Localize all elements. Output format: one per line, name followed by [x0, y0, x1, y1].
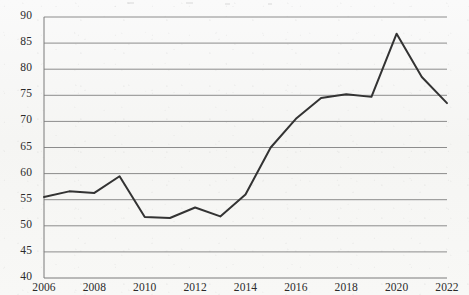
x-tick-label: 2016 [274, 281, 318, 293]
y-tick-label: 70 [2, 113, 32, 125]
y-tick-label: 45 [2, 244, 32, 256]
chart-figure: 4045505560657075808590 20062008201020122… [0, 0, 469, 295]
x-tick-label: 2006 [22, 281, 66, 293]
x-tick-label: 2012 [173, 281, 217, 293]
y-tick-label: 50 [2, 218, 32, 230]
x-tick-label: 2010 [123, 281, 167, 293]
x-tick-label: 2008 [72, 281, 116, 293]
gridlines [44, 17, 447, 252]
y-tick-label: 65 [2, 140, 32, 152]
y-tick-label: 60 [2, 166, 32, 178]
y-tick-label: 75 [2, 87, 32, 99]
line-chart-plot [0, 0, 469, 295]
y-tick-label: 80 [2, 61, 32, 73]
y-tick-label: 55 [2, 192, 32, 204]
series-line [44, 34, 447, 218]
x-tick-label: 2020 [375, 281, 419, 293]
data-series [44, 34, 447, 218]
x-tick-label: 2018 [324, 281, 368, 293]
x-tick-label: 2014 [224, 281, 268, 293]
x-tick-label: 2022 [425, 281, 469, 293]
y-tick-label: 85 [2, 35, 32, 47]
y-tick-label: 90 [2, 9, 32, 21]
